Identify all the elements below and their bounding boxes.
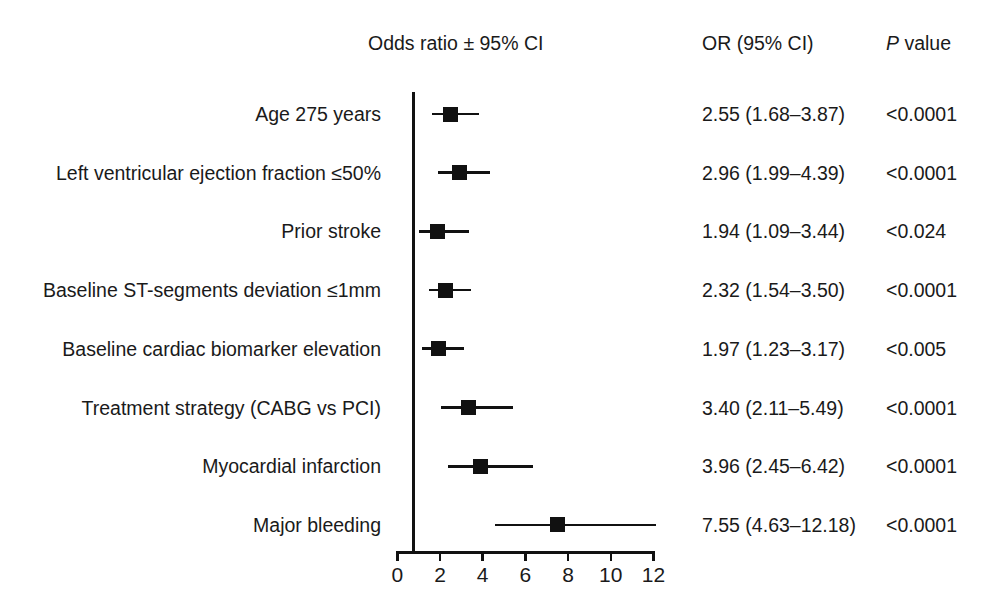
x-axis-tick [610,551,613,561]
confidence-interval-line [448,465,533,468]
x-axis-tick-label: 12 [634,563,674,587]
or-value-cell: 7.55 (4.63–12.18) [702,515,856,535]
x-axis-tick [396,551,399,561]
forest-plot-figure: Odds ratio ± 95% CI OR (95% CI) P value … [0,0,983,605]
or-value-cell: 3.96 (2.45–6.42) [702,456,845,476]
x-axis-tick [652,551,655,561]
p-value-cell: <0.0001 [886,163,957,183]
x-axis-tick-label: 6 [505,563,545,587]
x-axis-tick-label: 10 [591,563,631,587]
point-estimate-marker [452,165,467,180]
p-value-cell: <0.0001 [886,456,957,476]
or-value-cell: 1.97 (1.23–3.17) [702,339,845,359]
confidence-interval-line [441,406,513,409]
p-value-cell: <0.0001 [886,398,957,418]
point-estimate-marker [430,224,445,239]
point-estimate-marker [550,517,565,532]
point-estimate-marker [438,283,453,298]
or-value-cell: 1.94 (1.09–3.44) [702,221,845,241]
point-estimate-marker [473,459,488,474]
x-axis-tick-label: 8 [548,563,588,587]
or-value-cell: 2.96 (1.99–4.39) [702,163,845,183]
x-axis-tick-label: 0 [377,563,417,587]
x-axis-tick [481,551,484,561]
x-axis-tick-label: 2 [420,563,460,587]
point-estimate-marker [431,341,446,356]
reference-line-or-1 [412,92,415,552]
p-value-cell: <0.0001 [886,280,957,300]
p-value-cell: <0.0001 [886,515,957,535]
p-value-cell: <0.024 [886,221,946,241]
x-axis-tick [524,551,527,561]
confidence-interval-line [495,524,656,527]
p-value-cell: <0.005 [886,339,946,359]
point-estimate-marker [461,400,476,415]
point-estimate-marker [443,107,458,122]
x-axis-tick [439,551,442,561]
p-value-cell: <0.0001 [886,104,957,124]
x-axis-tick [567,551,570,561]
or-value-cell: 2.32 (1.54–3.50) [702,280,845,300]
or-value-cell: 2.55 (1.68–3.87) [702,104,845,124]
or-value-cell: 3.40 (2.11–5.49) [702,398,844,418]
x-axis-tick-label: 4 [463,563,503,587]
